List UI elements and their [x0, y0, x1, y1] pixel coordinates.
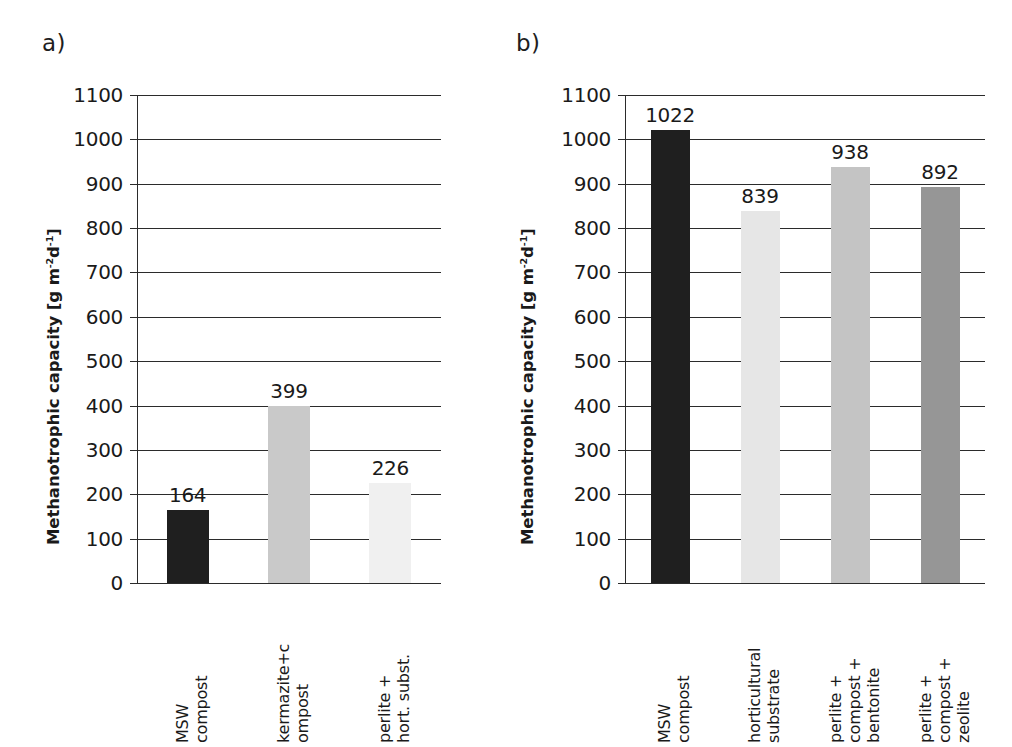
y-tick-mark	[618, 272, 625, 273]
y-tick-label: 800	[53, 216, 123, 240]
category-axis-label: substrate	[764, 669, 783, 743]
y-tick-label: 600	[53, 305, 123, 329]
y-tick-mark	[618, 95, 625, 96]
y-tick-label: 200	[53, 482, 123, 506]
y-tick-mark	[130, 317, 137, 318]
y-tick-label: 800	[541, 216, 611, 240]
gridline	[137, 228, 441, 229]
y-tick-mark	[130, 406, 137, 407]
y-tick-label: 1000	[541, 127, 611, 151]
bar-value-label: 226	[345, 456, 435, 480]
bar-value-label: 399	[244, 379, 334, 403]
panel-b: b) Methanotrophic capacity [g m-2d-1] 01…	[506, 0, 1012, 747]
category-axis-label: compost +	[935, 658, 954, 743]
category-axis-label: horticultural	[745, 648, 764, 743]
y-tick-label: 400	[541, 394, 611, 418]
panel-a-y-axis-line	[137, 95, 138, 583]
gridline	[137, 95, 441, 96]
y-tick-label: 100	[53, 527, 123, 551]
y-tick-label: 600	[541, 305, 611, 329]
x-axis-line	[625, 583, 985, 584]
panel-b-y-axis-title: Methanotrophic capacity [g m-2d-1]	[518, 228, 537, 545]
y-tick-label: 0	[541, 571, 611, 595]
panel-b-label: b)	[516, 30, 541, 56]
bar[interactable]	[741, 211, 780, 583]
y-tick-mark	[130, 95, 137, 96]
y-tick-mark	[130, 539, 137, 540]
bar-value-label: 839	[715, 184, 805, 208]
bar-value-label: 164	[143, 483, 233, 507]
y-tick-label: 1100	[53, 83, 123, 107]
bar[interactable]	[268, 406, 310, 583]
y-tick-label: 300	[541, 438, 611, 462]
y-tick-mark	[130, 450, 137, 451]
y-tick-mark	[618, 406, 625, 407]
y-tick-mark	[130, 184, 137, 185]
bar[interactable]	[651, 130, 690, 583]
y-tick-label: 200	[541, 482, 611, 506]
axis-title-exponent-day: -1	[518, 236, 529, 246]
y-tick-mark	[618, 228, 625, 229]
panel-b-y-axis-line	[625, 95, 626, 583]
y-tick-mark	[130, 361, 137, 362]
y-tick-mark	[618, 539, 625, 540]
y-tick-mark	[130, 272, 137, 273]
y-tick-label: 1100	[541, 83, 611, 107]
y-tick-mark	[130, 494, 137, 495]
figure-two-panel-bar-charts: a) Methanotrophic capacity [g m-2d-1] 01…	[0, 0, 1012, 747]
category-axis-label: kermazite+c	[274, 644, 293, 743]
category-axis-label: bentonite	[864, 668, 883, 743]
category-axis-label: compost	[192, 676, 211, 743]
y-tick-mark	[618, 317, 625, 318]
category-axis-label: compost	[674, 676, 693, 743]
y-tick-mark	[618, 139, 625, 140]
y-tick-label: 700	[541, 260, 611, 284]
y-tick-mark	[618, 184, 625, 185]
gridline	[137, 317, 441, 318]
y-tick-mark	[618, 450, 625, 451]
category-axis-label: zeolite	[954, 691, 973, 743]
panel-b-plot-area: 0100200300400500600700800900100011001022…	[625, 95, 985, 583]
category-axis-label: perlite +	[826, 675, 845, 743]
axis-title-exponent-area: -2	[518, 258, 529, 268]
bar[interactable]	[167, 510, 209, 583]
y-tick-label: 900	[53, 172, 123, 196]
y-tick-mark	[130, 583, 137, 584]
axis-title-day: d	[44, 246, 63, 258]
panel-a-label: a)	[42, 30, 66, 56]
y-tick-label: 100	[541, 527, 611, 551]
y-tick-mark	[130, 228, 137, 229]
bar-value-label: 1022	[625, 103, 715, 127]
y-tick-label: 500	[53, 349, 123, 373]
gridline	[137, 272, 441, 273]
y-tick-label: 400	[53, 394, 123, 418]
category-axis-label: MSW	[655, 704, 674, 743]
y-tick-mark	[618, 583, 625, 584]
panel-a-plot-area: 010020030040050060070080090010001100164M…	[137, 95, 441, 583]
y-tick-mark	[130, 139, 137, 140]
category-axis-label: ompost	[293, 684, 312, 743]
gridline	[137, 184, 441, 185]
y-tick-mark	[618, 361, 625, 362]
bar[interactable]	[369, 483, 411, 583]
bar[interactable]	[831, 167, 870, 583]
y-tick-label: 0	[53, 571, 123, 595]
gridline	[137, 361, 441, 362]
y-tick-label: 900	[541, 172, 611, 196]
category-axis-label: perlite +	[375, 675, 394, 743]
y-tick-label: 300	[53, 438, 123, 462]
gridline	[137, 139, 441, 140]
y-tick-label: 700	[53, 260, 123, 284]
category-axis-label: compost +	[845, 658, 864, 743]
x-axis-line	[137, 583, 441, 584]
bar-value-label: 892	[895, 160, 985, 184]
axis-title-text: Methanotrophic capacity [g m	[518, 268, 537, 545]
y-tick-label: 500	[541, 349, 611, 373]
gridline	[625, 95, 985, 96]
panel-a: a) Methanotrophic capacity [g m-2d-1] 01…	[0, 0, 506, 747]
bar[interactable]	[921, 187, 960, 583]
y-tick-label: 1000	[53, 127, 123, 151]
bar-value-label: 938	[805, 140, 895, 164]
y-tick-mark	[618, 494, 625, 495]
category-axis-label: hort. subst.	[394, 654, 413, 743]
